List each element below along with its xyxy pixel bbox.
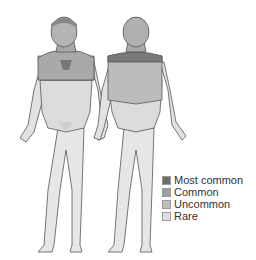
legend-item-uncommon: Uncommon (162, 198, 243, 210)
legend-item-rare: Rare (162, 210, 243, 222)
legend-label: Rare (174, 210, 198, 222)
legend: Most common Common Uncommon Rare (162, 174, 243, 222)
legend-item-common: Common (162, 186, 243, 198)
swatch-most-common (162, 176, 171, 185)
legend-label: Common (174, 186, 219, 198)
swatch-common (162, 188, 171, 197)
swatch-rare (162, 212, 171, 221)
legend-item-most-common: Most common (162, 174, 243, 186)
legend-label: Uncommon (174, 198, 230, 210)
swatch-uncommon (162, 200, 171, 209)
legend-label: Most common (174, 174, 243, 186)
